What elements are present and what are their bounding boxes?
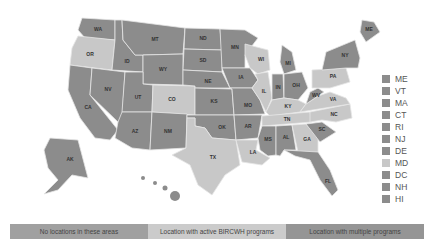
legend-swatch [382,87,390,95]
legend-swatch [382,123,390,131]
state-label-ia: IA [239,74,244,80]
state-label-nm: NM [164,128,172,134]
state-label-wa: WA [94,26,102,32]
legend-item-ri: RI [382,121,408,133]
legend-active: Location with active BIRCWH programs [148,224,286,239]
state-label-tx: TX [210,154,217,160]
state-label-co: CO [168,96,176,102]
legend-swatch [382,99,390,107]
legend-swatch [382,147,390,155]
state-label-ne: NE [205,78,213,84]
legend-item-hi: HI [382,193,408,205]
legend-label: RI [395,122,404,132]
legend-item-me: ME [382,73,408,85]
state-label-ny: NY [342,52,350,58]
legend-label: DC [395,170,407,180]
state-label-in: IN [276,84,281,90]
legend-item-nj: NJ [382,133,408,145]
state-label-mn: MN [231,44,239,50]
small-states-legend: MEVTMACTRINJDEMDDCNHHI [382,73,408,205]
state-hi [170,191,180,201]
legend-bar: No locations in these areas Location wit… [10,224,424,239]
state-label-va: VA [330,96,337,102]
state-label-nc: NC [330,111,338,117]
state-hi [141,176,145,180]
state-label-la: LA [250,149,257,155]
state-label-me: ME [365,26,373,32]
state-label-fl: FL [325,178,331,184]
state-label-ok: OK [218,124,226,130]
state-hi [153,181,157,185]
state-label-mi: MI [285,60,291,66]
legend-label: CT [395,110,406,120]
legend-label: VT [395,86,406,96]
legend-label: DE [395,146,407,156]
state-label-ak: AK [66,156,74,162]
legend-swatch [382,195,390,203]
legend-label: MD [395,158,408,168]
legend-swatch [382,111,390,119]
state-label-ky: KY [285,103,293,109]
legend-item-de: DE [382,145,408,157]
state-hi [163,186,168,191]
legend-item-vt: VT [382,85,408,97]
legend-swatch [382,171,390,179]
state-label-al: AL [283,134,290,140]
legend-item-md: MD [382,157,408,169]
legend-item-ma: MA [382,97,408,109]
legend-item-ct: CT [382,109,408,121]
state-fl [284,150,338,196]
legend-multiple: Location with multiple programs [286,224,424,239]
state-ak [44,138,88,194]
state-label-ut: UT [135,94,142,100]
state-label-mo: MO [244,102,252,108]
state-label-nd: ND [199,35,207,41]
state-label-or: OR [86,51,94,57]
legend-swatch [382,75,390,83]
legend-swatch [382,183,390,191]
state-label-wi: WI [258,56,265,62]
legend-label: NH [395,182,407,192]
state-label-az: AZ [132,128,139,134]
legend-none: No locations in these areas [10,224,148,239]
state-label-tn: TN [284,116,291,122]
state-label-mt: MT [151,36,158,42]
state-label-oh: OH [292,82,300,88]
legend-label: MA [395,98,408,108]
state-label-ms: MS [264,136,272,142]
state-label-ca: CA [84,104,92,110]
legend-swatch [382,159,390,167]
state-label-wy: WY [159,66,168,72]
legend-label: NJ [395,134,405,144]
state-label-ks: KS [211,98,219,104]
legend-label: HI [395,194,404,204]
state-label-pa: PA [330,73,337,79]
us-map: WAORCAIDNVMTWYUTAZCONMNDSDNEKSOKTXMNIAMO… [0,0,439,215]
state-label-sc: SC [319,126,326,132]
state-label-sd: SD [200,57,207,63]
state-label-il: IL [262,88,266,94]
state-label-nv: NV [105,86,113,92]
state-label-ga: GA [303,136,311,142]
state-label-wv: WV [312,92,321,98]
legend-item-dc: DC [382,169,408,181]
legend-label: ME [395,74,408,84]
state-label-id: ID [125,58,130,64]
state-label-ar: AR [244,123,252,129]
legend-item-nh: NH [382,181,408,193]
legend-swatch [382,135,390,143]
